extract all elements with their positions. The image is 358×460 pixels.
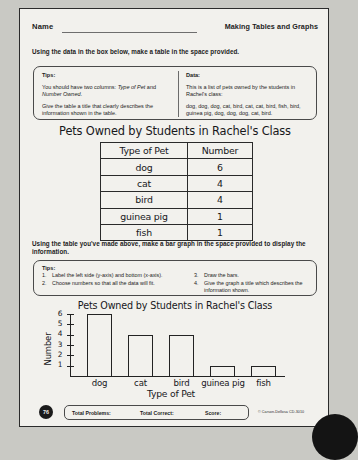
plot-area: 1 2 3 4 5 6 — [70, 314, 280, 376]
table-row: guinea pig 1 — [101, 208, 253, 224]
cell-pet-type: bird — [101, 192, 188, 208]
y-axis-tick: 4 — [67, 335, 74, 336]
cell-pet-count: 6 — [187, 159, 252, 175]
y-tick-label: 4 — [58, 330, 63, 338]
x-axis-line — [70, 376, 285, 377]
table-header-row: Type of Pet Number — [101, 143, 253, 159]
graph-tip-text: Label the left side (y-axis) and bottom … — [52, 272, 192, 279]
y-axis-tick: 5 — [67, 324, 74, 325]
data-pet-list: dog, dog, dog, cat, bird, cat, cat, bird… — [186, 103, 312, 118]
cell-pet-count: 4 — [187, 175, 252, 191]
data-column: Data: This is a list of pets owned by th… — [186, 72, 312, 117]
x-tick-label: cat — [118, 378, 163, 388]
graph-tip-text: Draw the bars. — [204, 272, 314, 279]
bar — [128, 335, 153, 376]
page-content: Name Making Tables and Graphs Using the … — [32, 9, 318, 426]
tips-text-b: and — [145, 84, 156, 90]
worksheet-page: Name Making Tables and Graphs Using the … — [19, 8, 329, 427]
table-row: fish 1 — [101, 224, 253, 240]
x-axis-label: Type of Pet — [60, 388, 282, 399]
bar — [251, 366, 276, 376]
cell-pet-count: 1 — [187, 208, 252, 224]
worksheet-footer: 76 Total Problems: Total Correct: Score:… — [32, 404, 318, 426]
x-tick-label: fish — [241, 378, 286, 388]
data-intro-text: This is a list of pets owned by the stud… — [186, 84, 312, 99]
tips-heading: Tips: — [42, 72, 173, 79]
table-row: cat 4 — [101, 175, 253, 191]
page-number-badge: 76 — [39, 405, 53, 419]
graph-tip-number: 3. — [194, 272, 203, 279]
y-tick-label: 5 — [58, 320, 63, 328]
total-correct-label: Total Correct: — [140, 410, 174, 416]
tips-text-c: . — [81, 91, 83, 97]
cell-pet-type: cat — [101, 175, 188, 191]
graph-title: Pets Owned by Students in Rachel's Class — [32, 300, 318, 311]
graph-tip-item: 4. Give the graph a title which describe… — [194, 280, 314, 294]
graph-tip-item: 3. Draw the bars. — [194, 272, 314, 279]
graph-tips-heading: Tips: — [42, 265, 55, 271]
tips-paragraph-2: Give the table a title that clearly desc… — [42, 103, 173, 118]
tips-text-a: You should have two columns: — [42, 84, 118, 90]
decorative-corner-blob — [312, 414, 358, 460]
column-header-type-of-pet: Type of Pet — [101, 143, 188, 159]
y-tick-label: 2 — [58, 351, 63, 359]
y-tick-label: 6 — [58, 310, 63, 318]
total-problems-label: Total Problems: — [72, 410, 111, 416]
y-tick-label: 3 — [58, 341, 63, 349]
tips-column: Tips: You should have two columns: Type … — [42, 72, 173, 117]
name-label: Name — [32, 22, 53, 31]
graph-tip-item: 1. Label the left side (y-axis) and bott… — [42, 272, 192, 279]
graph-tip-number: 2. — [42, 280, 51, 287]
cell-pet-type: fish — [101, 224, 188, 240]
y-axis-tick: 3 — [67, 345, 74, 346]
table-title: Pets Owned by Students in Rachel's Class — [32, 124, 318, 138]
column-header-number: Number — [187, 143, 252, 159]
tips-italic-number-owned: Number Owned — [42, 91, 81, 97]
score-box: Total Problems: Total Correct: Score: — [64, 405, 249, 420]
table-row: bird 4 — [101, 192, 253, 208]
name-write-line[interactable] — [62, 32, 197, 33]
bar — [210, 366, 235, 376]
cell-pet-count: 4 — [187, 192, 252, 208]
cell-pet-count: 1 — [187, 224, 252, 240]
data-heading: Data: — [186, 72, 312, 79]
box-column-divider — [178, 71, 179, 117]
graph-tips-box: Tips: 1. Label the left side (y-axis) an… — [33, 260, 317, 296]
bar — [169, 335, 194, 376]
y-tick-label: 1 — [58, 361, 63, 369]
worksheet-header: Name Making Tables and Graphs — [32, 22, 318, 38]
y-axis-tick: 1 — [67, 366, 74, 367]
cell-pet-type: dog — [101, 159, 188, 175]
graph-tip-text: Choose numbers so that all the data will… — [52, 280, 192, 287]
bar — [87, 314, 112, 376]
graph-tip-item: 2. Choose numbers so that all the data w… — [42, 280, 192, 287]
x-tick-label: dog — [77, 378, 122, 388]
y-axis-tick: 6 — [67, 314, 74, 315]
table-row: dog 6 — [101, 159, 253, 175]
graph-tip-number: 1. — [42, 272, 51, 279]
tips-paragraph-1: You should have two columns: Type of Pet… — [42, 84, 173, 99]
pet-table: Type of Pet Number dog 6 cat 4 bird 4 gu… — [100, 142, 253, 241]
y-axis-label: Number — [43, 326, 53, 372]
graph-tip-number: 4. — [194, 280, 203, 287]
worksheet-title: Making Tables and Graphs — [225, 22, 318, 31]
copyright-notice: © Carson-Dellosa CD-3010 — [258, 410, 304, 414]
bar-graph: Pets Owned by Students in Rachel's Class… — [32, 300, 318, 400]
graph-tip-text: Give the graph a title which describes t… — [204, 280, 314, 294]
instruction-part-1: Using the data in the box below, make a … — [32, 48, 318, 56]
tips-and-data-box: Tips: You should have two columns: Type … — [33, 66, 317, 120]
tips-italic-type-of-pet: Type of Pet — [118, 84, 146, 90]
y-axis-tick: 2 — [67, 355, 74, 356]
cell-pet-type: guinea pig — [101, 208, 188, 224]
score-label: Score: — [205, 410, 221, 416]
instruction-part-2: Using the table you've made above, make … — [32, 240, 315, 257]
